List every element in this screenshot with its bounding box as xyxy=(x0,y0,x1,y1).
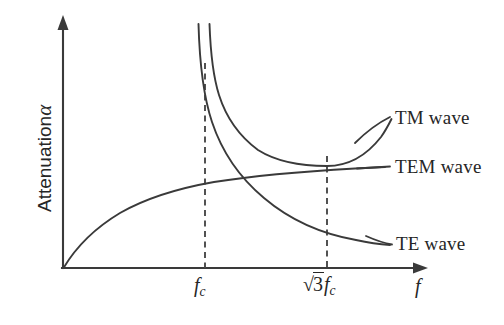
x-tick-label-fc: fc xyxy=(194,275,206,298)
x-tick-sqrt3fc-subscript: c xyxy=(330,283,336,298)
curve-tm-wave xyxy=(210,24,392,166)
y-axis-label-symbol: α xyxy=(32,105,56,116)
curve-tem-wave xyxy=(64,167,386,268)
x-axis-label: f xyxy=(415,276,421,296)
x-tick-label-sqrt3fc: √3fc xyxy=(303,274,336,297)
leader-line-tem xyxy=(357,167,390,169)
curve-label-tem: TEM wave xyxy=(395,157,482,176)
y-axis-arrowhead xyxy=(58,15,69,30)
curve-label-te: TE wave xyxy=(396,234,465,253)
curve-label-tm: TM wave xyxy=(395,108,470,127)
curve-te-wave xyxy=(199,24,391,245)
y-axis-label-text: Attenuation xyxy=(34,116,55,212)
x-tick-fc-subscript: c xyxy=(200,284,206,299)
y-axis-label: Attenuationα xyxy=(34,105,55,212)
x-tick-sqrt3fc-radicand: 3 xyxy=(313,272,324,295)
x-axis-arrowhead xyxy=(413,263,428,274)
attenuation-vs-frequency-figure: Attenuationα f fc √3fc TM wave TEM wave … xyxy=(0,0,504,325)
radical-icon: √3 xyxy=(303,274,324,294)
